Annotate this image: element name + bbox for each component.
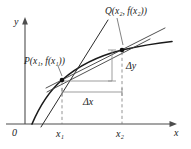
text-labels-group: y x 0 x₁ x₂ P(x₁, f(x₁)) Q(x₂, f(x₂)) Δx… <box>12 6 179 139</box>
leader-lines-group <box>58 18 123 76</box>
origin-label: 0 <box>12 127 17 138</box>
function-curve <box>32 42 172 125</box>
delta-y-label: Δy <box>125 60 137 71</box>
x-axis-label: x <box>173 127 179 138</box>
point-q-dot <box>120 48 125 53</box>
point-p-label: P(x₁, f(x₁)) <box>23 56 65 67</box>
x-tick-label-x1: x₁ <box>55 128 64 139</box>
function-curve-group <box>32 42 172 125</box>
leader-line-to-q <box>117 18 123 45</box>
point-p-dot <box>60 78 65 83</box>
secant-tangent-diagram: y x 0 x₁ x₂ P(x₁, f(x₁)) Q(x₂, f(x₂)) Δx… <box>0 0 191 149</box>
leader-line-to-p <box>58 66 62 76</box>
x-tick-label-x2: x₂ <box>115 128 124 139</box>
y-axis-arrow-icon <box>22 17 28 25</box>
figure-container: y x 0 x₁ x₂ P(x₁, f(x₁)) Q(x₂, f(x₂)) Δx… <box>0 0 191 149</box>
axes-group <box>6 17 177 127</box>
delta-x-bracket-group <box>62 88 122 96</box>
y-axis-label: y <box>13 16 19 27</box>
dashed-guides-group <box>62 52 122 124</box>
point-q-label: Q(x₂, f(x₂)) <box>105 6 147 17</box>
delta-x-label: Δx <box>82 96 94 107</box>
